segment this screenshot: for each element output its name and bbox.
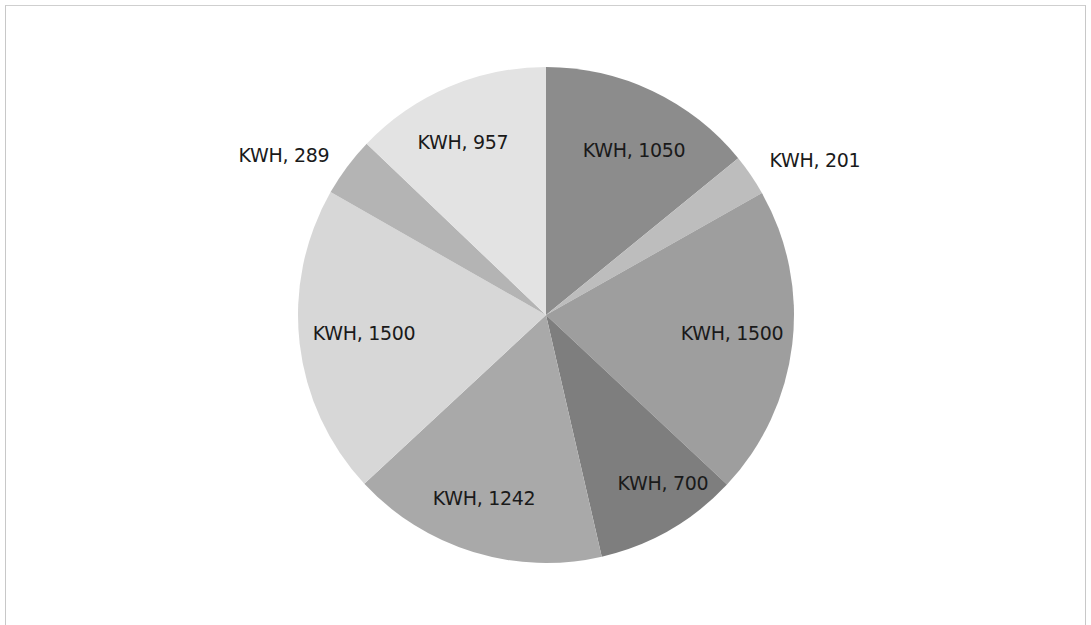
data-label-1500-right: KWH, 1500 <box>681 322 784 344</box>
data-label-700: KWH, 700 <box>618 472 709 494</box>
pie-slices <box>298 67 794 563</box>
data-label-1242: KWH, 1242 <box>433 487 536 509</box>
data-label-1050: KWH, 1050 <box>583 139 686 161</box>
data-label-957: KWH, 957 <box>418 131 509 153</box>
data-label-201: KWH, 201 <box>770 149 861 171</box>
data-label-1500-left: KWH, 1500 <box>313 322 416 344</box>
data-label-289: KWH, 289 <box>239 144 330 166</box>
